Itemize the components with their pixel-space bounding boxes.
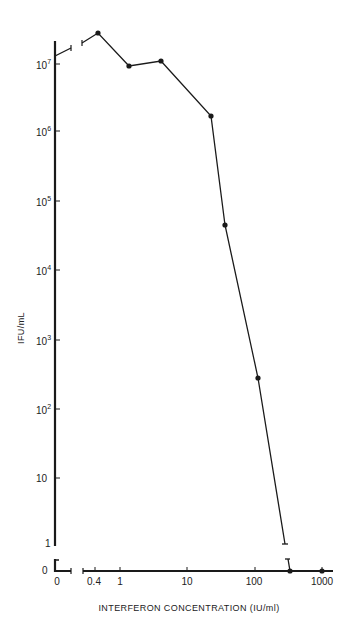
x-tick-1: 1	[117, 576, 123, 587]
data-point	[319, 568, 324, 573]
data-point	[208, 113, 213, 118]
data-point	[126, 63, 131, 68]
y-tick-1e4: 104	[36, 264, 51, 277]
y-axis-title: IFU/mL	[16, 312, 26, 344]
x-tick-10: 10	[181, 576, 193, 587]
y-tick-10: 10	[36, 473, 48, 484]
y-tick-1e6: 106	[36, 125, 51, 138]
y-tick-1: 1	[45, 538, 51, 549]
data-point	[158, 58, 163, 63]
data-point	[222, 222, 227, 227]
data-markers	[95, 30, 324, 573]
data-point	[255, 375, 260, 380]
chart: 107 106 105 104 103 102 10 1 0 IFU/mL 0 …	[0, 0, 353, 633]
y-tick-1e3: 103	[36, 334, 51, 347]
y-tick-1e7: 107	[36, 58, 51, 71]
y-tick-1e5: 105	[36, 195, 51, 208]
x-tick-1000: 1000	[311, 576, 334, 587]
x-tick-labels: 0 0.4 1 10 100 1000	[54, 576, 333, 587]
x-tick-0-4: 0.4	[87, 576, 101, 587]
x-tick-100: 100	[246, 576, 263, 587]
y-tick-1e2: 102	[36, 403, 51, 416]
x-axis-title: INTERFERON CONCENTRATION (IU/ml)	[98, 603, 279, 613]
y-tick-0: 0	[42, 565, 48, 576]
data-series	[55, 33, 290, 571]
x-tick-0: 0	[54, 576, 60, 587]
data-point	[95, 30, 100, 35]
y-axis	[55, 41, 60, 572]
y-tick-labels: 107 106 105 104 103 102 10 1 0	[36, 58, 51, 576]
data-point	[287, 568, 292, 573]
